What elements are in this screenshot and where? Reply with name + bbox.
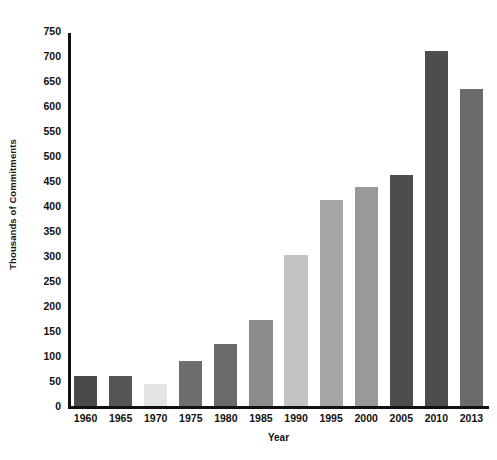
y-axis-tick-label: 200 bbox=[4, 300, 68, 312]
bar[interactable] bbox=[460, 89, 483, 407]
x-axis-tick-label: 1960 bbox=[68, 412, 103, 424]
bar[interactable] bbox=[320, 200, 343, 406]
bar[interactable] bbox=[390, 175, 413, 407]
y-axis-tick-label: 700 bbox=[4, 50, 68, 62]
bar[interactable] bbox=[144, 384, 167, 407]
y-axis-tick-label: 300 bbox=[4, 250, 68, 262]
x-axis-tick-label: 2000 bbox=[349, 412, 384, 424]
y-axis-tick-label: 250 bbox=[4, 275, 68, 287]
y-axis-tick-label: 400 bbox=[4, 200, 68, 212]
x-axis-tick-label: 1975 bbox=[173, 412, 208, 424]
bar-group bbox=[320, 20, 343, 406]
x-axis-tick-label: 1995 bbox=[314, 412, 349, 424]
bar-chart-figure: Thousands of Commitments 050100150200250… bbox=[0, 0, 497, 460]
y-axis-tick-label: 100 bbox=[4, 350, 68, 362]
x-axis-tick-label: 1985 bbox=[243, 412, 278, 424]
y-axis-tick-label: 450 bbox=[4, 175, 68, 187]
x-axis-tick-label: 1970 bbox=[138, 412, 173, 424]
bar[interactable] bbox=[249, 320, 272, 407]
y-axis-tick-label: 550 bbox=[4, 125, 68, 137]
plot-area: 0501001502002503003504004505005506006507… bbox=[68, 20, 489, 408]
bar[interactable] bbox=[425, 51, 448, 406]
y-axis-tick-label: 600 bbox=[4, 100, 68, 112]
bar-group bbox=[214, 20, 237, 406]
x-axis-tick-label: 1980 bbox=[208, 412, 243, 424]
bar-group bbox=[284, 20, 307, 406]
x-axis-tick-label: 2010 bbox=[419, 412, 454, 424]
bars-layer bbox=[68, 20, 489, 406]
x-axis-tick-label: 2013 bbox=[454, 412, 489, 424]
bar[interactable] bbox=[355, 187, 378, 406]
bar-group bbox=[144, 20, 167, 406]
x-axis-tick-labels: 1960196519701975198019851990199520002005… bbox=[68, 412, 489, 428]
y-axis-tick-label: 0 bbox=[4, 400, 68, 412]
bar-group bbox=[179, 20, 202, 406]
bar-group bbox=[109, 20, 132, 406]
x-axis-tick-label: 1990 bbox=[279, 412, 314, 424]
bar-group bbox=[74, 20, 97, 406]
x-axis-title: Year bbox=[68, 432, 489, 443]
x-axis-line bbox=[68, 406, 489, 409]
bar-group bbox=[249, 20, 272, 406]
x-axis-tick-label: 2005 bbox=[384, 412, 419, 424]
y-axis-tick-label: 350 bbox=[4, 225, 68, 237]
y-axis-tick-label: 750 bbox=[4, 25, 68, 37]
bar[interactable] bbox=[74, 376, 97, 406]
bar-group bbox=[390, 20, 413, 406]
bar-group bbox=[355, 20, 378, 406]
x-axis-tick-label: 1965 bbox=[103, 412, 138, 424]
y-axis-tick-label: 50 bbox=[4, 375, 68, 387]
bar[interactable] bbox=[284, 255, 307, 407]
bar-group bbox=[460, 20, 483, 406]
bar[interactable] bbox=[214, 344, 237, 407]
bar-group bbox=[425, 20, 448, 406]
y-axis-tick-label: 650 bbox=[4, 75, 68, 87]
bar[interactable] bbox=[179, 361, 202, 406]
bar[interactable] bbox=[109, 376, 132, 406]
y-axis-tick-label: 500 bbox=[4, 150, 68, 162]
y-axis-tick-label: 150 bbox=[4, 325, 68, 337]
